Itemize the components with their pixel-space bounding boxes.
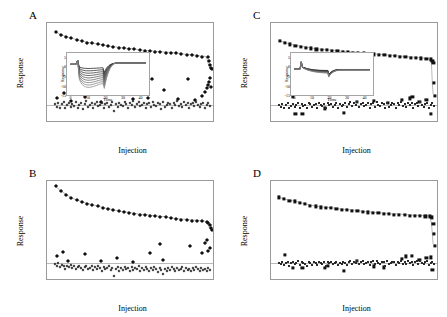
data-point <box>61 250 65 254</box>
data-point <box>148 270 151 273</box>
data-point <box>160 108 163 111</box>
x-tick-mark <box>358 279 359 280</box>
data-point <box>295 262 297 264</box>
data-point <box>346 264 348 266</box>
data-point <box>399 55 402 58</box>
data-point <box>295 104 297 106</box>
data-point <box>432 222 435 225</box>
data-point <box>283 41 286 44</box>
data-point <box>425 57 428 60</box>
inset-ytick: 5 <box>288 54 290 59</box>
data-point <box>149 105 152 108</box>
data-point <box>376 101 378 103</box>
y-tick-mark <box>46 32 47 33</box>
data-point <box>372 102 374 104</box>
data-point <box>324 206 327 209</box>
data-point <box>306 107 308 109</box>
data-point <box>111 208 115 212</box>
data-point <box>402 105 404 107</box>
data-point <box>294 44 297 47</box>
data-point <box>293 200 296 203</box>
data-point <box>64 193 68 197</box>
data-point <box>299 264 301 266</box>
inset-ytick: -10 <box>61 83 66 88</box>
data-point <box>113 110 116 113</box>
data-point <box>321 263 323 265</box>
data-point <box>349 260 351 262</box>
y-axis-label: Response <box>16 58 25 89</box>
data-point <box>288 107 290 109</box>
y-tick-mark <box>46 226 47 227</box>
y-tick-mark <box>46 86 47 87</box>
x-tick-mark <box>314 279 315 280</box>
data-point <box>428 264 430 266</box>
data-point <box>92 106 95 109</box>
data-point <box>325 107 327 109</box>
data-point <box>162 88 166 92</box>
data-point <box>74 101 77 104</box>
data-point <box>419 214 422 217</box>
y-tick-mark <box>46 244 47 245</box>
data-point <box>386 260 388 262</box>
x-tick-mark <box>90 279 91 280</box>
y-axis-label: Response <box>16 216 25 247</box>
data-point <box>388 106 390 108</box>
data-point <box>387 213 390 216</box>
data-point <box>101 43 105 47</box>
data-point <box>158 50 162 54</box>
y-tick-mark <box>270 190 271 191</box>
data-point <box>356 260 358 262</box>
data-point <box>386 102 388 104</box>
y-tick-mark <box>270 32 271 33</box>
x-tick-mark <box>271 121 272 122</box>
y-tick-mark <box>46 190 47 191</box>
data-point <box>314 205 317 208</box>
data-point <box>292 103 294 105</box>
data-point <box>137 213 141 217</box>
data-point <box>383 261 385 263</box>
x-tick-mark <box>68 121 69 122</box>
data-point <box>382 212 385 215</box>
data-point <box>90 203 94 207</box>
data-point <box>209 85 213 89</box>
data-point <box>162 272 165 275</box>
data-point <box>398 213 401 216</box>
x-tick-mark <box>134 279 135 280</box>
x-tick-mark <box>401 279 402 280</box>
data-point <box>337 107 339 109</box>
data-point <box>281 261 283 263</box>
data-point <box>395 107 397 109</box>
data-point <box>132 212 136 216</box>
data-point <box>310 47 313 50</box>
data-point <box>75 198 79 202</box>
data-point <box>195 54 199 58</box>
data-point <box>80 200 84 204</box>
data-point <box>95 268 98 271</box>
data-point <box>374 106 376 108</box>
data-point <box>369 264 371 266</box>
data-point <box>277 196 280 199</box>
data-point <box>106 44 110 48</box>
data-point <box>398 104 400 106</box>
data-point <box>390 104 392 106</box>
x-tick-mark <box>292 279 293 280</box>
data-point <box>122 46 126 50</box>
data-point <box>388 54 391 57</box>
y-tick-mark <box>46 104 47 105</box>
data-point <box>288 265 290 267</box>
y-tick-mark <box>270 50 271 51</box>
data-point <box>344 102 346 104</box>
data-point <box>174 217 178 221</box>
data-point <box>400 101 402 103</box>
data-point <box>59 189 63 193</box>
data-point <box>287 102 289 104</box>
data-point <box>383 54 386 57</box>
data-point <box>95 101 98 104</box>
plot-area-B: -20020406080050100150200250300350 <box>46 180 214 280</box>
data-point <box>106 207 110 211</box>
data-point <box>383 103 385 105</box>
data-point <box>209 269 212 272</box>
inset-xtick: 10 <box>86 95 90 100</box>
x-tick-mark <box>134 121 135 122</box>
data-point <box>116 209 120 213</box>
